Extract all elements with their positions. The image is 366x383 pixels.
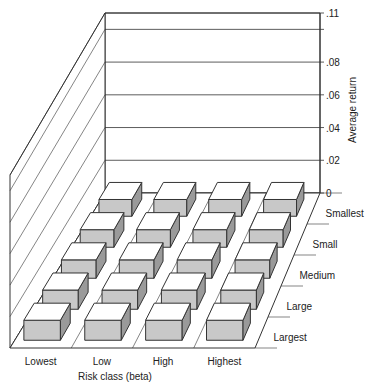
- z-tick-label: .08: [326, 57, 340, 68]
- z-tick-label: .06: [326, 90, 340, 101]
- back-wall: [105, 13, 320, 193]
- z-axis-title: Average return: [347, 77, 358, 143]
- bar-top-face: [207, 303, 251, 320]
- depth-label: Smallest: [326, 208, 365, 219]
- x-category-label: Low: [93, 356, 112, 367]
- bar-front-face: [146, 320, 183, 340]
- bar-front-face: [207, 320, 244, 340]
- x-category-label: Highest: [207, 356, 241, 367]
- bar-top-face: [221, 273, 264, 290]
- x-axis-title: Risk class (beta): [78, 371, 152, 382]
- bar-front-face: [85, 320, 122, 340]
- depth-label: Medium: [300, 270, 336, 281]
- x-category-label: High: [153, 356, 174, 367]
- bar-top-face: [235, 243, 277, 260]
- bar-front-face: [24, 320, 61, 340]
- depth-label: Largest: [274, 332, 308, 343]
- z-tick-label: .04: [326, 123, 340, 134]
- x-category-label: Lowest: [25, 356, 57, 367]
- z-tick-label: .02: [326, 155, 340, 166]
- 3d-bar-chart: 0.02.04.06.08.11SmallestSmallMediumLarge…: [0, 0, 366, 383]
- depth-label: Large: [287, 301, 313, 312]
- bar-top-face: [249, 213, 290, 230]
- z-tick-label: .11: [326, 8, 340, 19]
- z-tick-label: 0: [326, 188, 332, 199]
- depth-label: Small: [313, 239, 338, 250]
